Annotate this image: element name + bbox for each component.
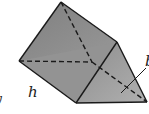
label-b-partial: b xyxy=(145,52,149,70)
label-h: h xyxy=(28,83,38,101)
label-left-partial: y xyxy=(0,91,3,107)
triangular-prism-diagram: h b y xyxy=(0,0,149,114)
